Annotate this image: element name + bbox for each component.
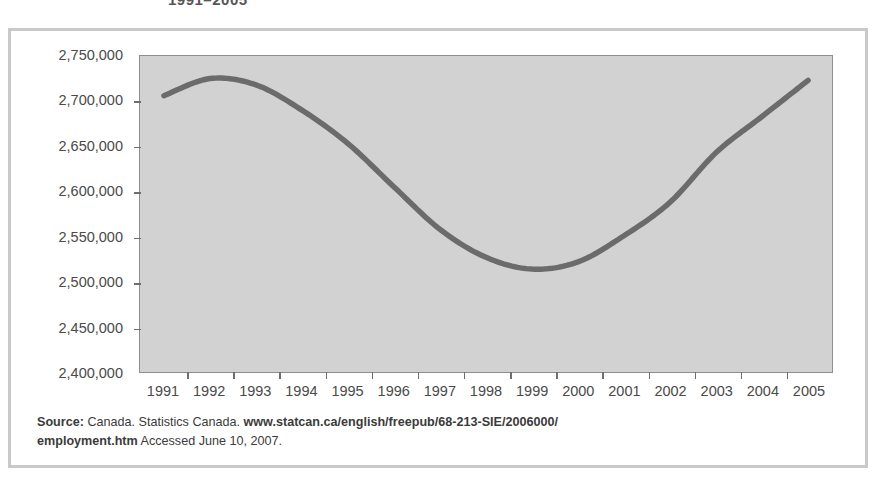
- x-axis-tick-label: 1998: [463, 383, 509, 399]
- x-axis-tick-label: 2002: [648, 383, 694, 399]
- chart-title-clipped: 1991–2005: [0, 0, 886, 12]
- x-axis-tick-label: 1997: [417, 383, 463, 399]
- y-axis-tick-label: 2,500,000: [11, 274, 123, 290]
- y-axis-tick: 2,550,000: [11, 229, 123, 245]
- x-axis-tick-label: 2005: [786, 383, 832, 399]
- x-axis-tick-label: 1994: [278, 383, 324, 399]
- source-url-line1: www.statcan.ca/english/freepub/68-213-SI…: [244, 415, 559, 429]
- y-axis-tick-label: 2,550,000: [11, 229, 123, 245]
- x-axis-tick-mark: [695, 372, 697, 379]
- y-axis-tick: 2,750,000: [11, 47, 123, 63]
- y-axis-tick-label: 2,600,000: [11, 183, 123, 199]
- y-axis-tick-mark: [134, 329, 141, 331]
- x-axis-tick-label: 1991: [140, 383, 186, 399]
- x-axis-tick-label: 2004: [740, 383, 786, 399]
- x-axis-tick-label: 1992: [186, 383, 232, 399]
- y-axis-tick: 2,400,000: [11, 365, 123, 381]
- y-axis-tick: 2,450,000: [11, 320, 123, 336]
- x-axis-tick-label: 1993: [232, 383, 278, 399]
- source-label: Source:: [37, 415, 84, 429]
- source-url-line2: employment.htm: [37, 434, 138, 448]
- line-chart-svg: [140, 56, 832, 372]
- x-axis-tick-label: 1999: [509, 383, 555, 399]
- x-axis-tick-mark: [326, 372, 328, 379]
- data-series-employment: [164, 78, 808, 269]
- y-axis-tick-label: 2,400,000: [11, 365, 123, 381]
- x-axis-tick-mark: [510, 372, 512, 379]
- y-axis-labels: 2,750,0002,700,0002,650,0002,600,0002,55…: [11, 55, 131, 373]
- y-axis-tick: 2,500,000: [11, 274, 123, 290]
- y-axis-tick-label: 2,650,000: [11, 138, 123, 154]
- y-axis-tick-label: 2,450,000: [11, 320, 123, 336]
- y-axis-tick: 2,600,000: [11, 183, 123, 199]
- y-axis-tick-mark: [134, 283, 141, 285]
- source-note: Source: Canada. Statistics Canada. www.s…: [37, 413, 837, 451]
- x-axis-labels: 1991199219931994199519961997199819992000…: [139, 383, 833, 407]
- x-axis-tick-mark: [556, 372, 558, 379]
- y-axis-tick-mark: [134, 101, 141, 103]
- chart-title-text: 1991–2005: [168, 0, 248, 8]
- y-axis-tick: 2,700,000: [11, 92, 123, 108]
- x-axis-tick-mark: [649, 372, 651, 379]
- plot-area: [139, 55, 833, 373]
- x-axis-tick-mark: [418, 372, 420, 379]
- x-axis-tick-mark: [279, 372, 281, 379]
- chart-region: 2,750,0002,700,0002,650,0002,600,0002,55…: [11, 31, 865, 383]
- y-axis-tick-mark: [134, 147, 141, 149]
- source-publisher: Canada. Statistics Canada.: [84, 415, 244, 429]
- x-axis-tick-label: 1996: [371, 383, 417, 399]
- x-axis-tick-mark: [602, 372, 604, 379]
- x-axis-tick-mark: [233, 372, 235, 379]
- x-axis-tick-mark: [787, 372, 789, 379]
- y-axis-tick-mark: [134, 192, 141, 194]
- x-axis-tick-label: 2001: [601, 383, 647, 399]
- y-axis-tick: 2,650,000: [11, 138, 123, 154]
- x-axis-tick-label: 2000: [555, 383, 601, 399]
- x-axis-tick-label: 1995: [325, 383, 371, 399]
- y-axis-tick-label: 2,700,000: [11, 92, 123, 108]
- y-axis-tick-mark: [134, 238, 141, 240]
- figure-frame: 2,750,0002,700,0002,650,0002,600,0002,55…: [8, 28, 868, 468]
- x-axis-tick-mark: [187, 372, 189, 379]
- x-axis-tick-mark: [464, 372, 466, 379]
- x-axis-tick-mark: [372, 372, 374, 379]
- x-axis-tick-label: 2003: [694, 383, 740, 399]
- y-axis-tick-label: 2,750,000: [11, 47, 123, 63]
- x-axis-tick-mark: [741, 372, 743, 379]
- source-access-date: Accessed June 10, 2007.: [138, 434, 282, 448]
